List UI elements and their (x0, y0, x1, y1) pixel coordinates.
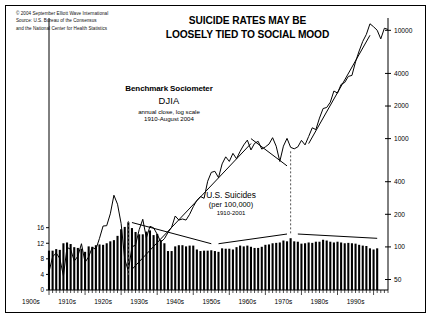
right-axis-tick-label: 1000 (394, 135, 409, 142)
suicide-rate-bar (109, 241, 111, 290)
djia-annotation: Benchmark Sociometer DJIA annual close, … (96, 84, 242, 122)
x-axis-tick-label: 1980s (311, 298, 329, 305)
suicide-rate-bar (160, 240, 162, 290)
suicide-rate-bar (333, 242, 335, 290)
djia-annotation-line-2: DJIA (96, 95, 242, 106)
djia-annotation-line-4: 1910-August 2004 (96, 115, 242, 122)
suicide-rate-bar (163, 243, 165, 290)
suicide-rate-bar (358, 245, 360, 290)
suicide-rate-bar (203, 251, 205, 290)
left-axis-tick-label: 12 (37, 240, 45, 247)
suicide-rate-bar (149, 230, 151, 290)
suicide-rate-bar (116, 236, 118, 290)
suicide-rate-bar (178, 245, 180, 290)
suicide-rate-bar (336, 242, 338, 290)
suicide-rate-bar (326, 241, 328, 290)
left-axis-tick-label: 16 (37, 224, 45, 231)
suicide-rate-bar (91, 247, 93, 290)
suicide-rate-bar (340, 242, 342, 290)
suicide-rate-bar (225, 249, 227, 290)
suicide-rate-bar (181, 245, 183, 290)
suicide-rate-bar (257, 248, 259, 290)
djia-line (49, 24, 388, 276)
suicide-rate-bar (250, 247, 252, 290)
right-axis-tick-label: 10000 (394, 27, 413, 34)
suicide-rate-bar (185, 246, 187, 290)
djia-annotation-line-1: Benchmark Sociometer (96, 84, 242, 93)
suicide-rate-bar (153, 235, 155, 290)
suicide-rate-bar (373, 249, 375, 290)
suicide-rate-bar (73, 247, 75, 290)
title-line-1: SUICIDE RATES MAY BE (140, 14, 355, 28)
suicide-rate-bar (142, 234, 144, 290)
suicide-rate-bar (232, 249, 234, 290)
right-axis-tick-label: 200 (394, 211, 405, 218)
suicide-rate-bar (293, 241, 295, 290)
suicide-rate-bar (59, 250, 61, 290)
suicide-rate-bar (196, 249, 198, 290)
suicide-rate-bar (315, 242, 317, 290)
suicide-rate-bar (207, 251, 209, 290)
suicide-rate-bar (113, 240, 115, 290)
left-axis-tick-label: 8 (40, 255, 44, 262)
suicide-rate-bar (369, 248, 371, 290)
suicide-rate-bar (192, 246, 194, 290)
suicide-rate-bar (127, 222, 129, 290)
suicide-rate-bar (214, 251, 216, 290)
suicides-annotation: U.S. Suicides (per 100,000) 1910-2001 (176, 190, 286, 218)
suicide-rate-bar (189, 246, 191, 290)
suicides-annotation-line-1: U.S. Suicides (176, 190, 286, 200)
suicide-rate-bar (286, 241, 288, 290)
right-axis-tick-label: 400 (394, 178, 405, 185)
right-axis-tick-label: 50 (394, 276, 402, 283)
suicide-rate-bar (347, 243, 349, 290)
suicide-rate-bar (322, 240, 324, 290)
suicide-rate-bar (297, 242, 299, 290)
x-axis-tick-label: 1950s (202, 298, 220, 305)
trendline-suicide-up-1957-1977 (219, 234, 288, 244)
suicide-rate-bar (120, 229, 122, 290)
suicide-rate-bar (254, 248, 256, 290)
x-axis-tick-label: 1960s (238, 298, 256, 305)
x-axis-tick-label: 1930s (130, 298, 148, 305)
suicide-rate-bar (329, 242, 331, 290)
right-axis-tick-label: 2000 (394, 102, 409, 109)
x-axis-tick-label: 1910s (58, 298, 76, 305)
suicide-rate-bar (290, 238, 292, 290)
suicide-rate-bar (264, 245, 266, 290)
suicide-rate-bar (80, 249, 82, 290)
suicide-rate-bar (246, 246, 248, 290)
suicide-rate-bar (221, 248, 223, 290)
suicide-rate-bar (243, 246, 245, 290)
suicide-rate-bar (311, 243, 313, 290)
suicide-rate-bar (88, 246, 90, 290)
suicide-rate-bar (279, 242, 281, 290)
suicide-rate-bar (217, 252, 219, 290)
djia-annotation-line-3: annual close, log scale (96, 108, 242, 115)
suicide-rate-bar (261, 247, 263, 290)
chart-title: SUICIDE RATES MAY BE LOOSELY TIED TO SOC… (140, 14, 355, 42)
suicides-annotation-line-3: 1910-2001 (176, 210, 286, 217)
suicide-rate-bar (239, 246, 241, 290)
right-axis-tick-label: 4000 (394, 70, 409, 77)
suicide-rate-bar (275, 243, 277, 290)
suicide-rate-bar (300, 244, 302, 290)
suicide-rate-bar (304, 243, 306, 290)
suicide-rate-bar (210, 250, 212, 290)
chart-page: 501002004001000200040001000004812161900s… (0, 0, 433, 320)
suicide-rate-bar (199, 251, 201, 290)
left-axis-tick-label: 0 (40, 286, 44, 293)
suicide-rate-bar (102, 245, 104, 290)
suicide-rate-bar (174, 246, 176, 290)
suicide-rate-bar (268, 244, 270, 290)
x-axis-tick-label: 1940s (166, 298, 184, 305)
suicide-rate-bar (344, 243, 346, 290)
suicide-rate-bar (145, 232, 147, 290)
suicide-rate-bar (376, 248, 378, 290)
suicide-rate-bar (98, 244, 100, 290)
suicide-rate-bar (355, 244, 357, 290)
x-axis-tick-label: 1920s (94, 298, 112, 305)
suicide-rate-bar (55, 249, 57, 290)
suicide-rate-bar (228, 249, 230, 290)
suicide-rate-bar (235, 247, 237, 290)
